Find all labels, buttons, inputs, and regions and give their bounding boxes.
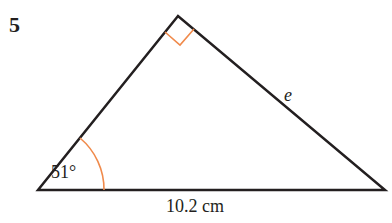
triangle [38, 16, 385, 190]
base-length-label: 10.2 cm [166, 197, 224, 215]
angle-label: 51° [51, 163, 76, 181]
right-angle-marker [165, 29, 194, 45]
side-e-label: e [284, 86, 292, 104]
angle-arc [80, 138, 104, 190]
triangle-diagram [0, 0, 392, 223]
